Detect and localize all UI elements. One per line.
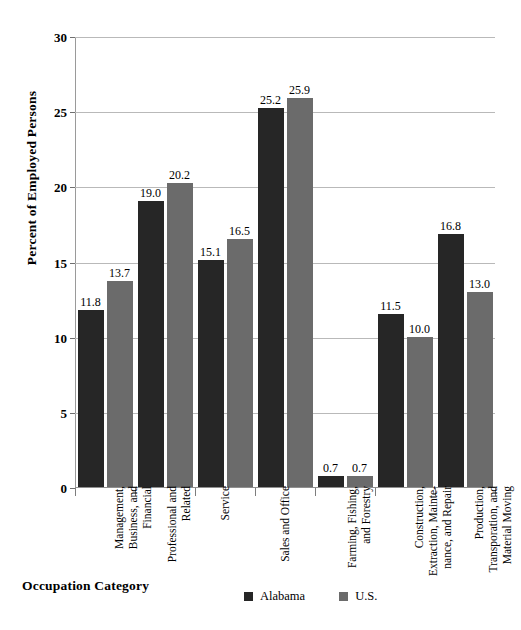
x-tick-mark <box>255 488 256 496</box>
bar-value-label: 16.5 <box>220 225 260 237</box>
bar-value-label: 15.1 <box>191 246 231 258</box>
legend-label: U.S. <box>355 590 377 603</box>
bar-value-label: 25.2 <box>251 94 291 106</box>
bar-value-label: 11.8 <box>71 296 111 308</box>
y-tick-mark <box>70 187 75 188</box>
legend-swatch-icon <box>244 592 253 601</box>
y-tick-label: 25 <box>54 106 67 119</box>
chart-legend: AlabamaU.S. <box>244 590 377 603</box>
y-tick: 20 <box>75 187 76 188</box>
bar-us <box>407 337 433 487</box>
bar-us <box>467 292 493 487</box>
bar-chart: Percent of Employed Persons 051015202530… <box>0 0 521 630</box>
y-tick-mark <box>70 338 75 339</box>
bar-value-label: 19.0 <box>131 187 171 199</box>
bar-value-label: 13.0 <box>460 278 500 290</box>
x-axis-title: Occupation Category <box>22 578 149 594</box>
bar-value-label: 20.2 <box>160 169 200 181</box>
bar-alabama <box>378 314 404 487</box>
x-tick-mark <box>75 488 76 496</box>
y-tick: 10 <box>75 338 76 339</box>
legend-label: Alabama <box>260 590 305 603</box>
x-category-label: Professional and Related <box>165 486 193 582</box>
y-tick: 30 <box>75 37 76 38</box>
y-tick-label: 5 <box>61 406 68 419</box>
x-tick-mark <box>375 488 376 496</box>
x-category-label: Sales and Office <box>278 486 292 582</box>
y-tick-label: 10 <box>54 331 67 344</box>
legend-swatch-icon <box>339 592 348 601</box>
y-tick: 25 <box>75 112 76 113</box>
y-tick-mark <box>70 413 75 414</box>
bar-value-label: 25.9 <box>280 84 320 96</box>
legend-item: U.S. <box>339 590 377 603</box>
bar-value-label: 10.0 <box>400 323 440 335</box>
y-tick-label: 30 <box>54 31 67 44</box>
y-tick: 15 <box>75 263 76 264</box>
y-tick-mark <box>70 37 75 38</box>
bar-alabama <box>438 234 464 487</box>
gridline <box>75 37 495 38</box>
y-tick-label: 20 <box>54 181 67 194</box>
y-tick: 5 <box>75 413 76 414</box>
x-category-label: Farming, Fishing, and Forestry <box>345 486 373 582</box>
gridline <box>75 112 495 113</box>
bar-us <box>107 281 133 487</box>
bar-alabama <box>198 260 224 487</box>
legend-item: Alabama <box>244 590 305 603</box>
x-tick-mark <box>195 488 196 496</box>
y-tick-mark <box>70 112 75 113</box>
bar-us <box>167 183 193 487</box>
bar-value-label: 16.8 <box>431 220 471 232</box>
x-category-label: Production, Transporation, and Material … <box>472 486 514 582</box>
bar-alabama <box>318 476 344 487</box>
x-category-label: Construction, Extraction, Mainte- nance,… <box>412 486 454 582</box>
plot-area: 051015202530 11.813.719.020.215.116.525.… <box>75 37 495 488</box>
bar-us <box>227 239 253 487</box>
x-category-label: Service <box>218 486 232 582</box>
bar-alabama <box>258 108 284 487</box>
y-tick-mark <box>70 263 75 264</box>
bar-alabama <box>78 310 104 487</box>
x-tick-mark <box>315 488 316 496</box>
y-axis-title: Percent of Employed Persons <box>24 63 40 293</box>
y-tick-label: 15 <box>54 256 67 269</box>
bar-alabama <box>138 201 164 487</box>
y-tick-label: 0 <box>61 482 68 495</box>
bar-value-label: 0.7 <box>340 462 380 474</box>
x-category-label: Management, Business, and Financial <box>112 486 154 582</box>
bar-value-label: 13.7 <box>100 267 140 279</box>
bar-value-label: 11.5 <box>371 300 411 312</box>
bar-us <box>287 98 313 487</box>
